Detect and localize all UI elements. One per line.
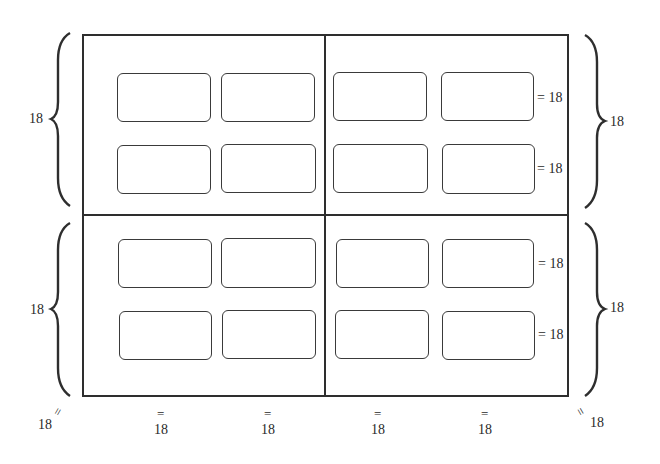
panel-box bbox=[442, 311, 535, 360]
left-brace-label: 18 bbox=[29, 112, 43, 126]
horizontal-divider bbox=[82, 214, 569, 216]
panel-box bbox=[442, 239, 534, 288]
column-mark: = bbox=[157, 407, 164, 420]
column-value: 18 bbox=[478, 423, 492, 437]
right-brace-icon bbox=[583, 34, 609, 209]
column-mark: = bbox=[481, 407, 488, 420]
panel-box bbox=[442, 144, 535, 194]
row-dimension-label: = 18 bbox=[537, 91, 562, 105]
corner-right-mark: = bbox=[573, 405, 588, 418]
panel-box bbox=[441, 72, 534, 121]
left-brace-icon bbox=[48, 32, 72, 207]
column-value: 18 bbox=[154, 423, 168, 437]
column-value: 18 bbox=[371, 423, 385, 437]
panel-box bbox=[333, 144, 428, 193]
corner-left-mark: = bbox=[50, 405, 65, 418]
left-brace-label: 18 bbox=[30, 303, 44, 317]
column-mark: = bbox=[264, 407, 271, 420]
panel-box bbox=[221, 238, 316, 288]
right-brace-icon bbox=[583, 222, 609, 397]
panel-box bbox=[335, 310, 429, 359]
right-brace-label: 18 bbox=[610, 115, 624, 129]
right-brace-label: 18 bbox=[610, 301, 624, 315]
column-mark: = bbox=[374, 407, 381, 420]
panel-box bbox=[117, 73, 211, 122]
corner-left-value: 18 bbox=[38, 418, 52, 432]
panel-box bbox=[221, 144, 316, 193]
left-brace-icon bbox=[48, 222, 72, 397]
panel-box bbox=[118, 239, 212, 288]
panel-box bbox=[119, 311, 212, 360]
panel-box bbox=[222, 310, 316, 359]
row-dimension-label: = 18 bbox=[538, 328, 563, 342]
corner-right-value: 18 bbox=[590, 416, 604, 430]
panel-box bbox=[117, 145, 211, 194]
row-dimension-label: = 18 bbox=[537, 162, 562, 176]
panel-box bbox=[221, 73, 315, 122]
row-dimension-label: = 18 bbox=[538, 257, 563, 271]
panel-box bbox=[336, 239, 429, 288]
panel-box bbox=[333, 72, 427, 121]
column-value: 18 bbox=[261, 423, 275, 437]
